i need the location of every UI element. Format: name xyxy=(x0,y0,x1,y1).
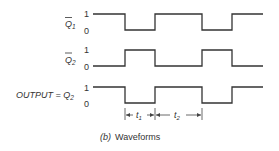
svg-text:Q2: Q2 xyxy=(65,55,76,66)
level-high-label-q2: 1 xyxy=(84,45,89,55)
waveform-q2-bar xyxy=(93,50,263,66)
level-low-label-q2: 0 xyxy=(84,62,89,72)
interval-label-t2: t2 xyxy=(174,110,181,121)
level-high-label-q1: 1 xyxy=(84,9,89,19)
level-high-label-out: 1 xyxy=(84,83,89,93)
svg-text:OUTPUT = Q2: OUTPUT = Q2 xyxy=(16,90,74,101)
waveform-output xyxy=(93,87,263,103)
figure-caption: (b)Waveforms xyxy=(100,132,161,142)
svg-text:Q1: Q1 xyxy=(65,19,76,30)
waveform-diagram: Q1 Q2 OUTPUT = Q2 1 0 1 0 1 0 t1 t2 (b)W… xyxy=(0,0,279,151)
signal-label-q2-bar: Q2 xyxy=(65,53,76,66)
interval-label-t1: t1 xyxy=(136,110,142,121)
level-low-label-out: 0 xyxy=(84,99,89,109)
level-low-label-q1: 0 xyxy=(84,26,89,36)
signal-label-q1-bar: Q1 xyxy=(65,18,76,31)
signal-label-output: OUTPUT = Q2 xyxy=(16,90,74,101)
waveform-q1-bar xyxy=(93,14,263,30)
